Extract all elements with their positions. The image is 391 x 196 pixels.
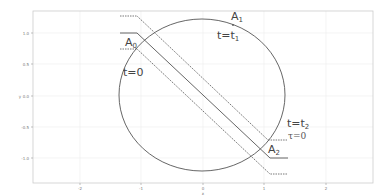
- y-tick-label: 1.0: [23, 31, 30, 36]
- y-tick-label: 0.0: [23, 94, 30, 99]
- x-tick-labels: -2 -1 0 1 2 x: [78, 186, 328, 196]
- upper-dotted-boundary: [120, 16, 287, 140]
- label-t0: t=0: [123, 66, 144, 79]
- y-axis-label: y: [19, 94, 22, 99]
- x-axis-label: x: [202, 191, 205, 196]
- y-tick-label: -1.0: [21, 156, 29, 161]
- y-tick-label: -0.5: [21, 125, 29, 130]
- label-a0: A0: [125, 36, 137, 50]
- y-tick-labels: 1.0 0.5 0.0 -0.5 -1.0 y: [19, 31, 30, 161]
- x-tick-label: -2: [78, 186, 82, 191]
- grid: [33, 11, 373, 183]
- a1-point: [232, 24, 234, 26]
- label-tau0: τ=0: [288, 131, 307, 141]
- lower-dotted-boundary: [120, 49, 288, 174]
- label-t2: t=t2: [287, 117, 309, 131]
- x-tick-label: 2: [325, 186, 328, 191]
- diagram-canvas: -2 -1 0 1 2 x 1.0 0.5 0.0 -0.5 -1.0 y A0…: [0, 0, 391, 196]
- label-t1: t=t1: [217, 29, 239, 43]
- x-tick-label: -1: [139, 186, 143, 191]
- center-path: [120, 33, 288, 158]
- label-a1: A1: [231, 10, 243, 24]
- label-a2: A2: [268, 143, 280, 157]
- x-tick-label: 1: [263, 186, 266, 191]
- y-tick-label: 0.5: [23, 62, 30, 67]
